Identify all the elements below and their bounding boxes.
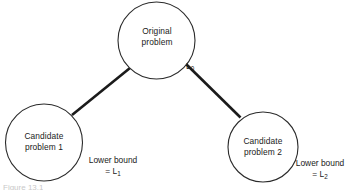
figure-caption: Figure 13.1 bbox=[3, 183, 43, 190]
node-original-problem-label-line-1: Original bbox=[118, 26, 196, 37]
candidate-2-bound-subscript: 2 bbox=[324, 173, 328, 180]
node-candidate-problem-2-label: Candidate problem 2 bbox=[227, 136, 299, 158]
candidate-2-equals-symbol: = bbox=[312, 169, 317, 179]
node-original-problem-label: Original problem bbox=[118, 26, 196, 48]
node-candidate-problem-2-label-line-1: Candidate bbox=[227, 136, 299, 147]
node-candidate-problem-1-label: Candidate problem 1 bbox=[4, 131, 84, 153]
candidate-1-equals-symbol: = bbox=[105, 166, 110, 176]
root-lower-bound-subscript: 0 bbox=[191, 65, 195, 72]
candidate-1-lower-bound-text: Lower bound bbox=[82, 155, 144, 166]
candidate-1-lower-bound-value: = L1 bbox=[82, 166, 144, 177]
node-original-problem-label-line-2: problem bbox=[118, 37, 196, 48]
node-candidate-problem-2-label-line-2: problem 2 bbox=[227, 147, 299, 158]
candidate-2-lower-bound-text: Lower bound bbox=[288, 158, 352, 169]
candidate-1-lower-bound-annotation: Lower bound = L1 bbox=[82, 155, 144, 177]
branch-and-bound-tree-figure: Original problem Candidate problem 1 Can… bbox=[0, 0, 357, 190]
node-candidate-problem-1-label-line-1: Candidate bbox=[4, 131, 84, 142]
node-candidate-problem-1-label-line-2: problem 1 bbox=[4, 142, 84, 153]
candidate-2-lower-bound-value: = L2 bbox=[288, 169, 352, 180]
edge-root-to-candidate-1 bbox=[72, 68, 130, 115]
root-lower-bound-label: L0 bbox=[186, 61, 194, 71]
candidate-2-lower-bound-annotation: Lower bound = L2 bbox=[288, 158, 352, 180]
candidate-1-bound-subscript: 1 bbox=[117, 170, 121, 177]
